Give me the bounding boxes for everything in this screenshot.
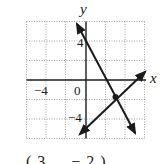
coordinate-plane [0, 0, 161, 164]
tick-label-origin: 0 [74, 84, 81, 97]
intersection-point [113, 94, 119, 100]
tick-label-x-neg4: −4 [34, 84, 48, 97]
line-2 [80, 72, 145, 134]
tick-label-y-neg4: −4 [68, 111, 82, 124]
x-axis-label: x [150, 72, 157, 85]
answer-caption: (3, −2) [26, 153, 112, 164]
y-axis-label: y [80, 3, 87, 16]
tick-label-y-4: 4 [77, 36, 84, 49]
